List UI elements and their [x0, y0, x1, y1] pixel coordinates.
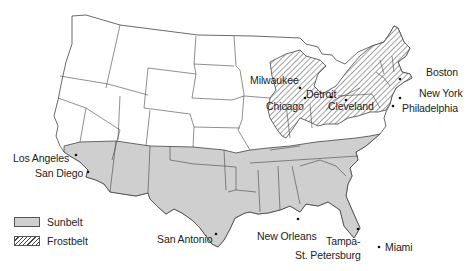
map-legend: Sunbelt Frostbelt — [14, 212, 88, 250]
sunbelt-swatch-icon — [14, 217, 40, 227]
city-label-los-angeles: Los Angeles — [13, 153, 69, 164]
city-label-chicago: Chicago — [266, 101, 304, 112]
city-label-new-orleans: New Orleans — [257, 231, 317, 242]
city-label-milwaukee: Milwaukee — [250, 75, 299, 86]
legend-item-frostbelt: Frostbelt — [14, 231, 88, 250]
city-label-cleveland: Cleveland — [328, 101, 374, 112]
frostbelt-swatch-icon — [14, 236, 40, 246]
city-label-san-diego: San Diego — [35, 168, 83, 179]
city-label-philadelphia: Philadelphia — [402, 103, 458, 114]
city-label-miami: Miami — [385, 242, 413, 253]
legend-label-frostbelt: Frostbelt — [47, 235, 88, 247]
legend-label-sunbelt: Sunbelt — [47, 216, 83, 228]
city-label-tampa: Tampa- — [326, 236, 360, 247]
city-label-new-york: New York — [419, 88, 463, 99]
city-label-st-petersburg: St. Petersburg — [295, 250, 361, 261]
legend-item-sunbelt: Sunbelt — [14, 212, 88, 231]
sunbelt-region — [64, 134, 380, 247]
city-label-boston: Boston — [426, 67, 458, 78]
city-label-san-antonio: San Antonio — [157, 234, 213, 245]
city-label-detroit: Detroit — [306, 89, 336, 100]
